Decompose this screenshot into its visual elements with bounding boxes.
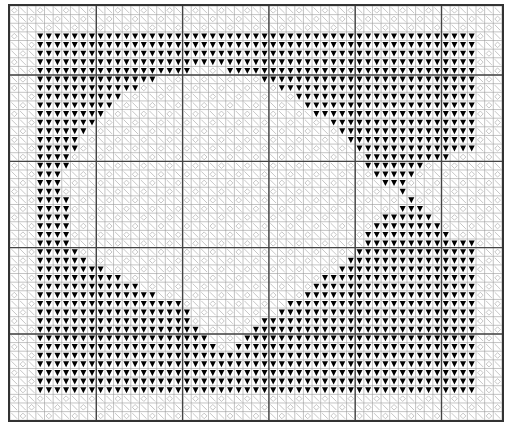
cross-stitch-chart bbox=[8, 4, 504, 422]
pattern-grid bbox=[10, 6, 502, 420]
